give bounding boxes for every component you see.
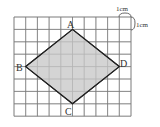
vertex-label-a: A	[67, 19, 75, 30]
vertex-label-d: D	[120, 58, 127, 69]
scale-label-right: 1cm	[136, 21, 149, 29]
vertex-label-b: B	[16, 62, 23, 73]
scale-label-top: 1cm	[116, 5, 129, 13]
grid-diagram: A B C D 1cm 1cm	[0, 0, 160, 127]
scale-arc-icon	[119, 13, 135, 30]
grid-lines-overlay	[14, 17, 131, 116]
vertex-label-c: C	[65, 106, 72, 117]
